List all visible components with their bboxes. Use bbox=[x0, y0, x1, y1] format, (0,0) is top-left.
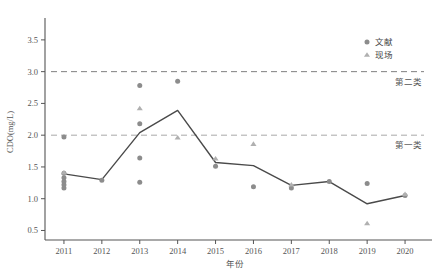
y-axis-tick: 0.5 bbox=[27, 225, 45, 235]
y-axis-tick-label: 3.5 bbox=[27, 35, 38, 45]
x-axis-tick-label: 2014 bbox=[169, 246, 187, 256]
x-axis-tick: 2017 bbox=[283, 240, 300, 256]
x-axis-tick-label: 2016 bbox=[245, 246, 262, 256]
y-axis-tick: 2.5 bbox=[27, 98, 45, 108]
y-axis-tick: 1.5 bbox=[27, 162, 45, 172]
x-axis-tick: 2012 bbox=[93, 240, 110, 256]
legend-label: 文献 bbox=[375, 37, 393, 47]
x-axis-tick-label: 2012 bbox=[93, 246, 110, 256]
legend-item-literature[interactable]: 文献 bbox=[365, 37, 394, 47]
y-axis-title: CDO(mg/L) bbox=[5, 111, 15, 153]
reference-line-label: 第二类 bbox=[395, 77, 422, 87]
data-point-circle bbox=[61, 185, 66, 190]
y-axis-tick-label: 2.0 bbox=[27, 130, 38, 140]
legend-triangle-icon bbox=[364, 52, 370, 57]
y-axis-tick-group: 0.51.01.52.02.53.03.5 bbox=[27, 35, 45, 236]
data-point-circle bbox=[137, 156, 142, 161]
legend-item-field[interactable]: 现场 bbox=[364, 50, 393, 60]
chart-container: 0.51.01.52.02.53.03.5 201120122013201420… bbox=[0, 0, 439, 280]
mean-trend-line bbox=[64, 110, 405, 203]
data-point-circle bbox=[251, 184, 256, 189]
data-point-triangle bbox=[364, 221, 370, 226]
data-point-circle bbox=[213, 164, 218, 169]
y-axis-tick: 1.0 bbox=[27, 194, 45, 204]
data-point-triangle bbox=[137, 106, 143, 111]
data-point-triangle bbox=[250, 141, 256, 146]
data-point-circle bbox=[137, 121, 142, 126]
axis-line-group bbox=[45, 18, 432, 240]
scatter-line-chart: 0.51.01.52.02.53.03.5 201120122013201420… bbox=[0, 0, 439, 280]
x-axis-tick-label: 2013 bbox=[131, 246, 148, 256]
data-point-circle bbox=[327, 179, 332, 184]
x-axis-title: 年份 bbox=[226, 259, 244, 269]
x-axis-tick: 2014 bbox=[169, 240, 187, 256]
x-axis-tick-label: 2019 bbox=[359, 246, 376, 256]
chart-legend: 文献现场 bbox=[364, 37, 393, 60]
x-axis-tick: 2020 bbox=[397, 240, 414, 256]
reference-line-labels: 第二类第一类 bbox=[395, 77, 422, 151]
y-axis-tick-label: 0.5 bbox=[27, 225, 38, 235]
x-axis-tick-label: 2011 bbox=[56, 246, 73, 256]
data-point-triangle bbox=[175, 135, 181, 140]
x-axis-tick: 2015 bbox=[207, 240, 224, 256]
data-point-circle bbox=[137, 180, 142, 185]
x-axis-tick: 2019 bbox=[359, 240, 376, 256]
reference-line-group bbox=[51, 72, 424, 136]
x-axis-tick: 2011 bbox=[56, 240, 73, 256]
y-axis-tick-label: 2.5 bbox=[27, 98, 38, 108]
x-axis-tick-label: 2018 bbox=[321, 246, 338, 256]
data-point-circle bbox=[175, 79, 180, 84]
x-axis-tick: 2018 bbox=[321, 240, 338, 256]
series-literature bbox=[61, 79, 407, 198]
x-axis-tick-label: 2020 bbox=[397, 246, 414, 256]
y-axis-tick: 3.0 bbox=[27, 67, 45, 77]
y-axis-tick: 2.0 bbox=[27, 130, 45, 140]
x-axis-tick-label: 2017 bbox=[283, 246, 300, 256]
data-point-circle bbox=[61, 135, 66, 140]
y-axis-tick: 3.5 bbox=[27, 35, 45, 45]
y-axis-tick-label: 1.0 bbox=[27, 194, 38, 204]
data-point-circle bbox=[137, 83, 142, 88]
x-axis-tick-label: 2015 bbox=[207, 246, 224, 256]
data-point-circle bbox=[99, 178, 104, 183]
reference-line-label: 第一类 bbox=[395, 140, 422, 150]
data-point-triangle bbox=[402, 192, 408, 197]
x-axis-tick: 2013 bbox=[131, 240, 148, 256]
data-point-triangle bbox=[213, 156, 219, 161]
data-points-layer bbox=[61, 79, 408, 226]
y-axis-tick-label: 1.5 bbox=[27, 162, 38, 172]
legend-circle-icon bbox=[365, 40, 370, 45]
legend-label: 现场 bbox=[375, 50, 393, 60]
data-point-circle bbox=[365, 181, 370, 186]
y-axis-tick-label: 3.0 bbox=[27, 67, 38, 77]
x-axis-tick: 2016 bbox=[245, 240, 262, 256]
x-axis-tick-group: 2011201220132014201520162017201820192020 bbox=[56, 240, 414, 256]
trend-polyline bbox=[64, 110, 405, 203]
